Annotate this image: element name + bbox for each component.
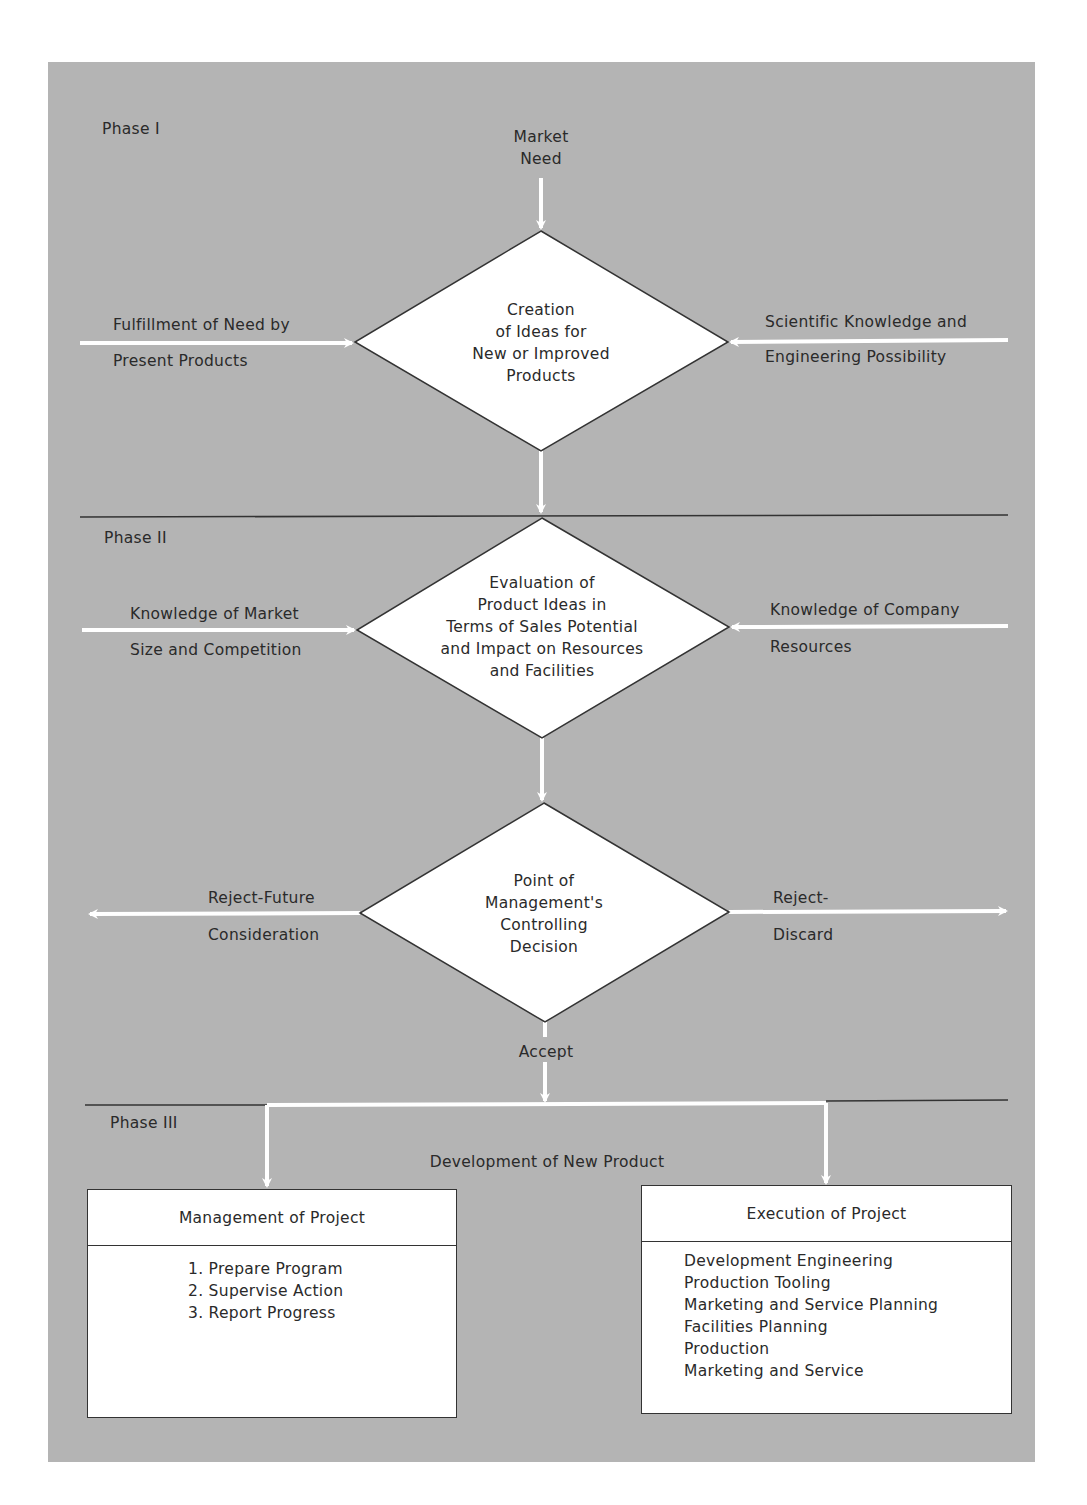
phase-label-1: Phase I [102, 118, 160, 140]
management-task: 1. Prepare Program [188, 1258, 456, 1280]
execution-box-title: Execution of Project [642, 1186, 1011, 1242]
execution-task: Marketing and Service Planning [684, 1294, 1011, 1316]
creation-decision-text: Creation of Ideas for New or Improved Pr… [472, 299, 610, 387]
reject-discard-label-b: Discard [773, 924, 833, 946]
reject-future-label-b: Consideration [208, 924, 319, 946]
execution-task-list: Development Engineering Production Tooli… [642, 1242, 1011, 1382]
execution-task: Production [684, 1338, 1011, 1360]
control-decision-text: Point of Management's Controlling Decisi… [485, 870, 603, 958]
execution-task: Development Engineering [684, 1250, 1011, 1272]
execution-task: Production Tooling [684, 1272, 1011, 1294]
right-input-label-1a: Scientific Knowledge and [765, 311, 967, 333]
branch-line [267, 1103, 826, 1105]
phase2-divider [80, 515, 1008, 517]
reject-future-arrow [90, 913, 360, 914]
right-input-arrow-2 [732, 626, 1008, 627]
left-input-label-2b: Size and Competition [130, 639, 302, 661]
reject-discard-arrow [729, 911, 1006, 912]
left-input-label-2a: Knowledge of Market [130, 603, 299, 625]
right-input-arrow-1 [731, 340, 1008, 342]
execution-task: Marketing and Service [684, 1360, 1011, 1382]
right-input-label-2a: Knowledge of Company [770, 599, 960, 621]
reject-discard-label-a: Reject- [773, 887, 829, 909]
phase3-divider-right [826, 1100, 1008, 1101]
management-task: 2. Supervise Action [188, 1280, 456, 1302]
management-box: Management of Project 1. Prepare Program… [87, 1189, 457, 1418]
phase-label-3: Phase III [110, 1112, 178, 1134]
execution-task: Facilities Planning [684, 1316, 1011, 1338]
left-input-label-1a: Fulfillment of Need by [113, 314, 290, 336]
left-input-label-1b: Present Products [113, 350, 248, 372]
reject-future-label-a: Reject-Future [208, 887, 315, 909]
market-need-label: Market Need [513, 126, 568, 170]
phase-label-2: Phase II [104, 527, 167, 549]
management-task-list: 1. Prepare Program 2. Supervise Action 3… [88, 1246, 456, 1324]
accept-label: Accept [519, 1041, 574, 1063]
management-task: 3. Report Progress [188, 1302, 456, 1324]
right-input-label-2b: Resources [770, 636, 852, 658]
development-title: Development of New Product [430, 1151, 665, 1173]
right-input-label-1b: Engineering Possibility [765, 346, 947, 368]
evaluation-decision-text: Evaluation of Product Ideas in Terms of … [441, 572, 644, 682]
management-box-title: Management of Project [88, 1190, 456, 1246]
execution-box: Execution of Project Development Enginee… [641, 1185, 1012, 1414]
